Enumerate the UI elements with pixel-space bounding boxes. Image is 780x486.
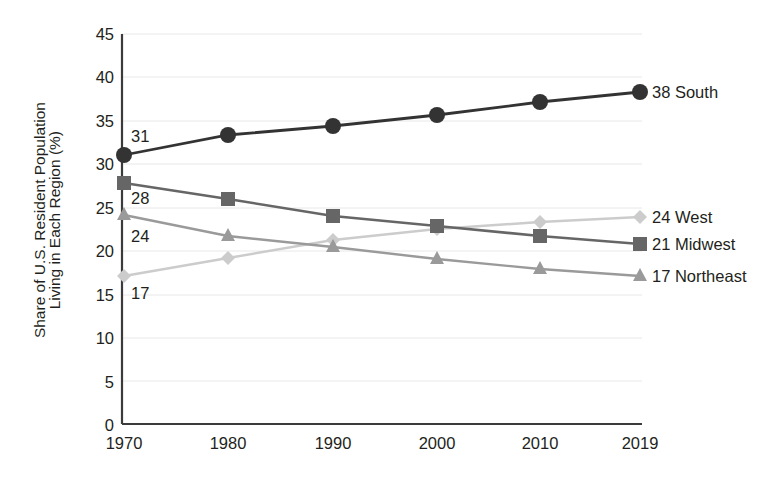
series-midwest-markers xyxy=(117,176,647,251)
series-west-line xyxy=(124,217,640,276)
series-label-midwest: 21 Midwest xyxy=(652,236,735,253)
data-label-south-1970: 31 xyxy=(131,128,149,145)
data-label-midwest-1970: 28 xyxy=(131,190,149,207)
series-northeast-line xyxy=(124,215,640,276)
series-south-line xyxy=(124,92,640,155)
data-label-northeast-1970: 24 xyxy=(131,228,149,245)
series-south xyxy=(116,84,648,163)
series-label-west: 24 West xyxy=(652,209,712,226)
x-tick-2010: 2010 xyxy=(495,435,585,452)
x-tick-1970: 1970 xyxy=(79,435,169,452)
x-tick-2019: 2019 xyxy=(595,435,685,452)
data-label-west-1970: 17 xyxy=(131,285,149,302)
series-northeast xyxy=(117,207,647,281)
series-midwest xyxy=(117,176,647,251)
gridlines xyxy=(122,34,642,381)
x-tick-1990: 1990 xyxy=(288,435,378,452)
x-tick-2000: 2000 xyxy=(392,435,482,452)
series-label-northeast: 17 Northeast xyxy=(652,268,746,285)
x-tick-1980: 1980 xyxy=(183,435,273,452)
series-label-south: 38 South xyxy=(652,84,718,101)
chart-container: Share of U.S. Resident Population Living… xyxy=(0,0,780,486)
series-south-markers xyxy=(116,84,648,163)
